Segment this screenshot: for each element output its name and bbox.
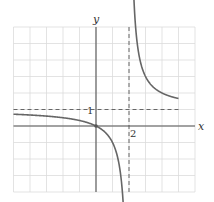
- origin-point: [94, 124, 98, 128]
- function-graph: x y 1 2: [0, 0, 214, 202]
- y-tick-label-1: 1: [87, 105, 93, 116]
- left-branch-curve: [14, 114, 127, 202]
- x-tick-label-2: 2: [130, 128, 136, 139]
- x-axis-label: x: [198, 120, 205, 133]
- y-axis-label: y: [92, 13, 100, 26]
- right-branch-curve: [133, 0, 179, 99]
